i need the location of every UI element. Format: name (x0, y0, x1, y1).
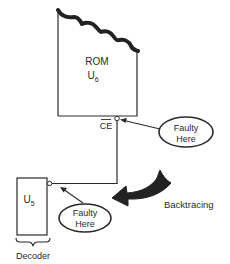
rom-chip: ROM U6 (58, 10, 138, 116)
diagram-canvas: ROM U6 CE Faulty Here U5 Decoder Faulty … (0, 0, 230, 264)
ce-label: CE (100, 121, 113, 131)
svg-text:Here: Here (75, 219, 95, 229)
decoder-chip: U5 Decoder (16, 178, 52, 261)
torn-edge-icon (58, 10, 138, 51)
brace-icon (16, 238, 50, 246)
backtracing-label: Backtracing (164, 199, 214, 210)
backtracing-arrow: Backtracing (112, 170, 214, 210)
rom-ref: U6 (87, 70, 98, 83)
ce-signal: CE (52, 116, 119, 183)
arrowhead-icon (120, 118, 127, 123)
rom-label: ROM (85, 56, 108, 67)
callout-faulty-rom: Faulty Here (120, 117, 213, 147)
callout-faulty-decoder: Faulty Here (59, 187, 111, 232)
curved-arrow-icon (112, 170, 171, 206)
svg-text:Faulty: Faulty (174, 123, 199, 133)
decoder-label: Decoder (16, 251, 50, 261)
svg-text:Here: Here (176, 134, 196, 144)
svg-text:Faulty: Faulty (73, 208, 98, 218)
